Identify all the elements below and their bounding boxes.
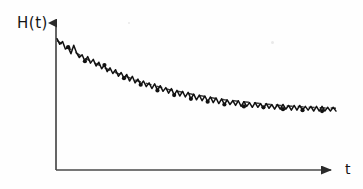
peak-marker-dot	[66, 45, 70, 49]
trend-line	[57, 41, 336, 109]
peak-marker-dot	[320, 109, 324, 113]
signal-curve	[57, 39, 336, 111]
peak-marker-dot	[155, 88, 159, 92]
peak-marker-dot	[281, 107, 285, 111]
plot-area	[0, 0, 363, 189]
y-axis-label: H(t)	[17, 14, 48, 32]
peak-marker-dot	[242, 104, 246, 108]
peak-marker-dot	[139, 83, 143, 87]
peak-markers	[66, 45, 324, 113]
scan-speck	[271, 41, 274, 44]
peak-marker-dot	[172, 93, 176, 97]
peak-marker-dot	[222, 102, 226, 106]
peak-marker-dot	[189, 97, 193, 101]
peak-marker-dot	[206, 100, 210, 104]
peak-marker-dot	[300, 108, 304, 112]
figure-canvas: H(t) t	[0, 0, 363, 189]
peak-marker-dot	[122, 76, 126, 80]
x-axis-label: t	[345, 161, 351, 177]
scan-speck	[128, 22, 130, 24]
peak-marker-dot	[261, 105, 265, 109]
peak-marker-dot	[102, 63, 106, 67]
peak-marker-dot	[83, 59, 87, 63]
